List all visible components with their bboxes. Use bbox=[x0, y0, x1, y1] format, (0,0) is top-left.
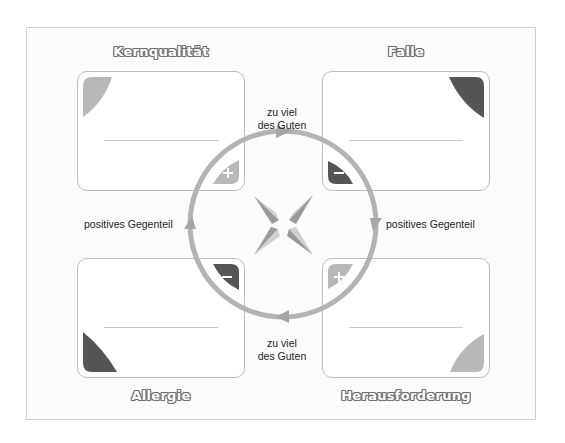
corner-leaf-top-right bbox=[449, 77, 484, 118]
label-right-positives-gegenteil: positives Gegenteil bbox=[386, 218, 486, 231]
label-line: zu viel bbox=[242, 337, 322, 350]
corner-leaf-bottom-right bbox=[450, 334, 484, 372]
label-bottom-zu-viel: zu viel des Guten bbox=[242, 337, 322, 363]
label-left-positives-gegenteil: positives Gegenteil bbox=[84, 218, 184, 231]
arrow-left-icon bbox=[276, 310, 289, 323]
label-line: des Guten bbox=[242, 350, 322, 363]
label-line: zu viel bbox=[242, 106, 322, 119]
center-star-icon bbox=[254, 195, 313, 255]
corner-leaf-top-left bbox=[83, 77, 112, 117]
cycle-ring bbox=[190, 131, 376, 317]
label-top-zu-viel: zu viel des Guten bbox=[242, 106, 322, 132]
corner-leaf-bottom-left bbox=[83, 332, 117, 372]
label-line: des Guten bbox=[242, 119, 322, 132]
